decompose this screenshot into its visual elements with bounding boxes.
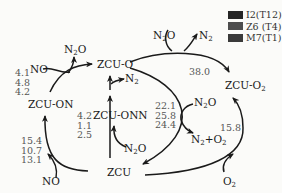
molecule-n2-mid: N2 <box>125 73 139 88</box>
n2o-right-n: N <box>194 96 203 108</box>
n2o-top-left-n: N <box>64 43 73 55</box>
barrier-zcu-to-onn-m7: 2.5 <box>77 130 92 140</box>
n2o-top-right-n: N <box>153 29 162 41</box>
legend-swatch-i2 <box>228 11 243 19</box>
species-zcu-o2-base: ZCU-O <box>225 79 261 91</box>
molecule-n2o-bottom: N2O <box>124 143 146 158</box>
legend-swatch-m7 <box>228 34 243 42</box>
barrier-on-to-o-m7: 4.2 <box>15 87 30 97</box>
species-zcu-o2-sub: 2 <box>261 85 265 93</box>
n2-o2-plus-o: +O <box>205 133 222 145</box>
barrier-zcu-to-on-m7: 13.1 <box>21 155 42 165</box>
barrier-zcu-to-o2: 15.8 <box>220 123 241 133</box>
arrow-n2-out-top-right <box>184 34 197 51</box>
n2-top-right-n: N <box>199 29 208 41</box>
arrow-n2-o2-out <box>181 120 193 133</box>
n2o-right-o: O <box>208 96 217 108</box>
n2o-top-right-o: O <box>167 29 176 41</box>
barrier-o-to-o2: 38.0 <box>189 67 210 77</box>
legend: I2(T12) Z6 (T4) M7(T1) <box>228 9 282 44</box>
barriers-zcu-to-onn: 4.2 1.1 2.5 <box>77 111 92 140</box>
species-zcu-on: ZCU-ON <box>28 99 73 110</box>
n2o-bottom-o: O <box>138 142 147 154</box>
arrow-zcu-o-to-zcu-o2 <box>130 53 229 72</box>
barriers-zcu-to-on: 15.4 10.7 13.1 <box>21 136 42 165</box>
arrow-n2o-out-top <box>68 57 74 73</box>
legend-item-i2: I2(T12) <box>228 9 282 20</box>
barriers-on-to-o: 4.1 4.8 4.2 <box>15 68 30 97</box>
barrier-o-to-zcu-m7: 24.4 <box>155 120 176 130</box>
legend-label-i2: I2(T12) <box>246 9 282 20</box>
molecule-n2-top-right: N2 <box>199 30 213 45</box>
o2-bottom-o: O <box>223 175 232 187</box>
n2-mid-n: N <box>125 72 134 84</box>
species-zcu-o2: ZCU-O2 <box>225 80 266 95</box>
arrow-n2-out-mid <box>111 79 124 84</box>
n2o-top-left-o: O <box>78 43 87 55</box>
molecule-n2-o2-product: N2+O2 <box>191 134 227 149</box>
molecule-no-top-left: NO <box>30 64 48 75</box>
molecule-n2o-top-right: N2O <box>153 30 175 45</box>
species-zcu: ZCU <box>107 167 131 178</box>
legend-item-z6: Z6 (T4) <box>228 21 282 32</box>
legend-label-z6: Z6 (T4) <box>246 21 281 32</box>
legend-item-m7: M7(T1) <box>228 32 282 43</box>
n2-o2-o-sub: 2 <box>222 139 226 147</box>
molecule-o2-bottom: O2 <box>223 176 236 191</box>
n2-mid-sub: 2 <box>134 78 138 86</box>
n2-top-right-sub: 2 <box>208 35 212 43</box>
o2-bottom-sub: 2 <box>232 181 236 189</box>
n2o-bottom-n: N <box>124 142 133 154</box>
n2-o2-n: N <box>191 133 200 145</box>
legend-label-m7: M7(T1) <box>246 32 282 43</box>
species-zcu-o: ZCU-O <box>97 59 133 70</box>
species-zcu-onn: ZCU-ONN <box>93 110 148 121</box>
molecule-no-bottom: NO <box>42 176 60 187</box>
legend-swatch-z6 <box>228 22 243 30</box>
molecule-n2o-right: N2O <box>194 97 216 112</box>
molecule-n2o-top-left: N2O <box>64 44 86 59</box>
barriers-o-to-zcu: 22.1 25.8 24.4 <box>155 101 176 130</box>
